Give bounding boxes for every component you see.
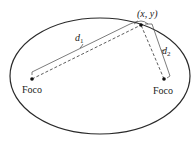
point-label: (x, y) bbox=[137, 8, 158, 20]
ellipse-diagram: (x, y) d1 d2 Foco Foco bbox=[0, 0, 194, 145]
point-xy bbox=[139, 23, 143, 27]
dashed-line-left-focus bbox=[32, 25, 141, 79]
right-focus-dot bbox=[162, 77, 166, 81]
ellipse-outline bbox=[10, 18, 190, 134]
right-focus-label: Foco bbox=[153, 85, 173, 96]
left-focus-label: Foco bbox=[22, 84, 42, 95]
d1-label: d1 bbox=[75, 32, 84, 45]
left-focus-dot bbox=[30, 77, 34, 81]
